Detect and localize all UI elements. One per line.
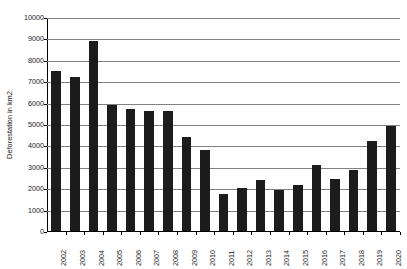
x-axis-tick-label: 2012 (245, 236, 254, 266)
y-axis-tick-label: 8000 (14, 57, 44, 65)
y-axis-tick-labels: 0100020003000400050006000700080009000100… (14, 0, 44, 269)
x-axis-tick-label: 2008 (171, 236, 180, 266)
x-axis-tick (103, 232, 104, 235)
y-axis-tick (44, 104, 47, 105)
x-axis-tick (196, 232, 197, 235)
deforestation-bar-chart: Deforestation in km2 0100020003000400050… (0, 0, 407, 269)
bar (312, 165, 322, 231)
x-axis-tick-label: 2020 (394, 236, 403, 266)
x-axis-tick-label: 2002 (59, 236, 68, 266)
bar (163, 111, 173, 231)
y-axis-title-label: Deforestation in km2 (5, 91, 14, 159)
plot-area (47, 18, 400, 232)
bar (70, 77, 80, 231)
bar (293, 185, 303, 231)
x-axis-tick (363, 232, 364, 235)
x-axis-tick (158, 232, 159, 235)
x-axis-tick-label: 2010 (208, 236, 217, 266)
bar (182, 137, 192, 231)
bar (89, 41, 99, 231)
x-axis-line (47, 231, 400, 232)
x-axis-tick (140, 232, 141, 235)
y-axis-tick (44, 39, 47, 40)
x-axis-tick-label: 2018 (357, 236, 366, 266)
x-axis-tick (381, 232, 382, 235)
x-axis-tick-label: 2011 (227, 236, 236, 266)
x-axis-tick (307, 232, 308, 235)
gridline (47, 189, 400, 190)
bar (144, 111, 154, 231)
x-axis-tick (289, 232, 290, 235)
y-axis-tick-label: 7000 (14, 78, 44, 86)
bar (126, 109, 136, 231)
bar (237, 188, 247, 231)
bar (274, 190, 284, 231)
bar (367, 141, 377, 231)
x-axis-tick (84, 232, 85, 235)
bar (200, 150, 210, 231)
x-axis-tick (251, 232, 252, 235)
x-axis-tick-label: 2015 (301, 236, 310, 266)
bar (256, 180, 266, 231)
y-axis-tick-label: 10000 (14, 14, 44, 22)
bar (51, 71, 61, 232)
x-axis-tick (177, 232, 178, 235)
bar (107, 105, 117, 231)
y-axis-tick (44, 146, 47, 147)
y-axis-tick (44, 189, 47, 190)
x-axis-tick-label: 2019 (375, 236, 384, 266)
y-axis-tick-label: 6000 (14, 100, 44, 108)
x-axis-tick (326, 232, 327, 235)
x-axis-tick (66, 232, 67, 235)
x-axis-tick-label: 2005 (115, 236, 124, 266)
x-axis-tick (214, 232, 215, 235)
y-axis-tick (44, 18, 47, 19)
x-axis-tick-label: 2009 (190, 236, 199, 266)
x-axis-tick-label: 2014 (282, 236, 291, 266)
x-axis-tick-labels: 2002200320042005200620072008200920102011… (47, 236, 400, 269)
y-axis-tick-label: 0 (14, 228, 44, 236)
gridline (47, 125, 400, 126)
x-axis-tick-label: 2004 (97, 236, 106, 266)
gridline (47, 39, 400, 40)
gridline (47, 18, 400, 19)
x-axis-tick (121, 232, 122, 235)
x-axis-tick-label: 2017 (338, 236, 347, 266)
x-axis-tick (344, 232, 345, 235)
x-axis-tick-label: 2007 (152, 236, 161, 266)
y-axis-tick-label: 9000 (14, 35, 44, 43)
y-axis-tick-label: 2000 (14, 185, 44, 193)
y-axis-tick (44, 168, 47, 169)
gridline (47, 168, 400, 169)
y-axis-tick (44, 82, 47, 83)
y-axis-tick (44, 61, 47, 62)
y-axis-tick-label: 5000 (14, 121, 44, 129)
bar (386, 126, 396, 231)
gridline (47, 146, 400, 147)
x-axis-tick (233, 232, 234, 235)
x-axis-tick (270, 232, 271, 235)
x-axis-tick-label: 2006 (134, 236, 143, 266)
y-axis-tick-label: 1000 (14, 207, 44, 215)
y-axis-tick (44, 211, 47, 212)
gridline (47, 82, 400, 83)
x-axis-tick-label: 2016 (320, 236, 329, 266)
x-axis-tick (400, 232, 401, 235)
bar (330, 179, 340, 231)
bar (219, 194, 229, 231)
x-axis-tick-label: 2003 (78, 236, 87, 266)
y-axis-tick-label: 3000 (14, 164, 44, 172)
x-axis-tick-label: 2013 (264, 236, 273, 266)
bar (349, 170, 359, 231)
gridline (47, 61, 400, 62)
y-axis-tick (44, 125, 47, 126)
y-axis-tick-label: 4000 (14, 142, 44, 150)
y-axis-tick (44, 232, 47, 233)
gridline (47, 104, 400, 105)
